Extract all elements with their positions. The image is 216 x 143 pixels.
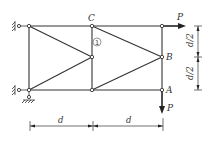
truss-members xyxy=(29,26,162,90)
diagonal-c-b xyxy=(92,26,162,57)
dim-label-left-d: d xyxy=(58,115,64,125)
load-horizontal-p: P xyxy=(162,12,186,29)
node-top-left xyxy=(27,24,30,27)
node-bottom-left xyxy=(27,88,30,91)
node-label-b: B xyxy=(165,52,173,62)
node-b xyxy=(160,55,163,58)
horizontal-dimension: d d xyxy=(30,115,163,131)
vertical-dimension: d/2 d/2 xyxy=(185,26,202,90)
node-top-right xyxy=(160,24,163,27)
dim-label-upper: d/2 xyxy=(185,33,195,47)
dim-label-right-d: d xyxy=(126,115,132,125)
load-label-p-top: P xyxy=(176,12,184,22)
truss-nodes xyxy=(27,24,163,91)
node-c xyxy=(90,24,93,27)
member-label-1: 1 xyxy=(93,38,101,47)
node-middle xyxy=(90,55,93,58)
diagonal-tl-m xyxy=(29,26,92,57)
node-label-c: C xyxy=(88,13,95,23)
diagonal-bm-b xyxy=(92,57,162,90)
svg-text:1: 1 xyxy=(95,39,99,47)
node-bottom-middle xyxy=(90,88,93,91)
diagonal-bl-m xyxy=(29,57,92,90)
load-label-p-bottom: P xyxy=(166,103,174,113)
truss-diagram: P P C B A 1 d/2 d/2 xyxy=(0,0,216,143)
node-a xyxy=(160,88,163,91)
dim-label-lower: d/2 xyxy=(185,66,195,80)
node-label-a: A xyxy=(165,85,173,95)
top-left-support xyxy=(12,21,29,31)
bottom-left-support xyxy=(12,85,35,103)
